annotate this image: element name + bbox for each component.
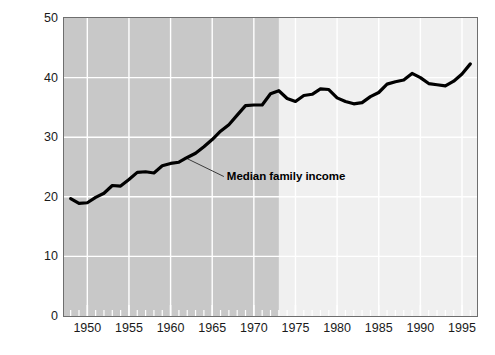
x-tick-1985: 1985 [357, 322, 401, 335]
x-tick-1960: 1960 [149, 322, 193, 335]
plot-area [63, 17, 478, 317]
chart-figure: Median family income (thousands of 1996 … [0, 0, 495, 355]
y-tick-50: 50 [28, 12, 58, 24]
x-tick-1950: 1950 [65, 322, 109, 335]
y-tick-30: 30 [28, 131, 58, 143]
x-tick-1980: 1980 [315, 322, 359, 335]
chart-plot-svg [64, 18, 477, 316]
y-tick-10: 10 [28, 250, 58, 262]
shaded-region-group [64, 18, 279, 316]
x-tick-1975: 1975 [273, 322, 317, 335]
y-tick-20: 20 [28, 191, 58, 203]
x-tick-1970: 1970 [232, 322, 276, 335]
annotation-median-family-income: Median family income [227, 170, 346, 182]
y-tick-0: 0 [28, 310, 58, 322]
y-axis-tick-labels: 01020304050 [28, 0, 58, 355]
x-tick-1965: 1965 [190, 322, 234, 335]
x-tick-1995: 1995 [440, 322, 484, 335]
recession-shaded-region [64, 18, 279, 316]
y-tick-40: 40 [28, 72, 58, 84]
x-tick-1955: 1955 [107, 322, 151, 335]
x-tick-1990: 1990 [398, 322, 442, 335]
